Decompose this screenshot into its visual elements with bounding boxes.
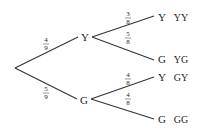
svg-text:8: 8 <box>126 99 130 107</box>
outcome-gg: GG <box>174 114 188 125</box>
svg-text:8: 8 <box>126 18 130 26</box>
frac-den: 9 <box>44 44 48 52</box>
frac-num: 5 <box>44 85 48 93</box>
svg-text:4: 4 <box>126 91 130 99</box>
frac-den: 9 <box>44 93 48 101</box>
fraction-root-g: 5 9 <box>43 85 49 101</box>
edge-y-to-g <box>92 37 154 60</box>
fraction-g-y: 4 8 <box>125 71 131 87</box>
frac-num: 4 <box>44 36 48 44</box>
edge-y-to-y <box>92 16 154 37</box>
outcome-yg: YG <box>174 54 188 65</box>
edge-g-to-g <box>91 99 154 119</box>
svg-text:4: 4 <box>126 71 130 79</box>
svg-text:3: 3 <box>126 10 130 18</box>
svg-text:5: 5 <box>126 30 130 38</box>
node-g: G <box>80 94 88 106</box>
fraction-g-g: 4 8 <box>125 91 131 107</box>
svg-text:8: 8 <box>126 38 130 46</box>
outcome-gy: GY <box>174 72 188 83</box>
fraction-y-g: 5 8 <box>125 30 131 46</box>
leaf-yg-node: G <box>158 53 166 65</box>
leaf-yy-node: Y <box>158 11 166 23</box>
probability-tree-diagram: 4 9 5 9 Y G 3 8 5 8 4 8 4 8 Y G Y G YY <box>0 0 200 133</box>
fraction-root-y: 4 9 <box>43 36 49 52</box>
outcome-yy: YY <box>174 12 188 23</box>
leaf-gy-node: Y <box>158 71 166 83</box>
svg-text:8: 8 <box>126 79 130 87</box>
edge-g-to-y <box>91 77 154 99</box>
leaf-gg-node: G <box>158 113 166 125</box>
node-y: Y <box>81 31 89 43</box>
